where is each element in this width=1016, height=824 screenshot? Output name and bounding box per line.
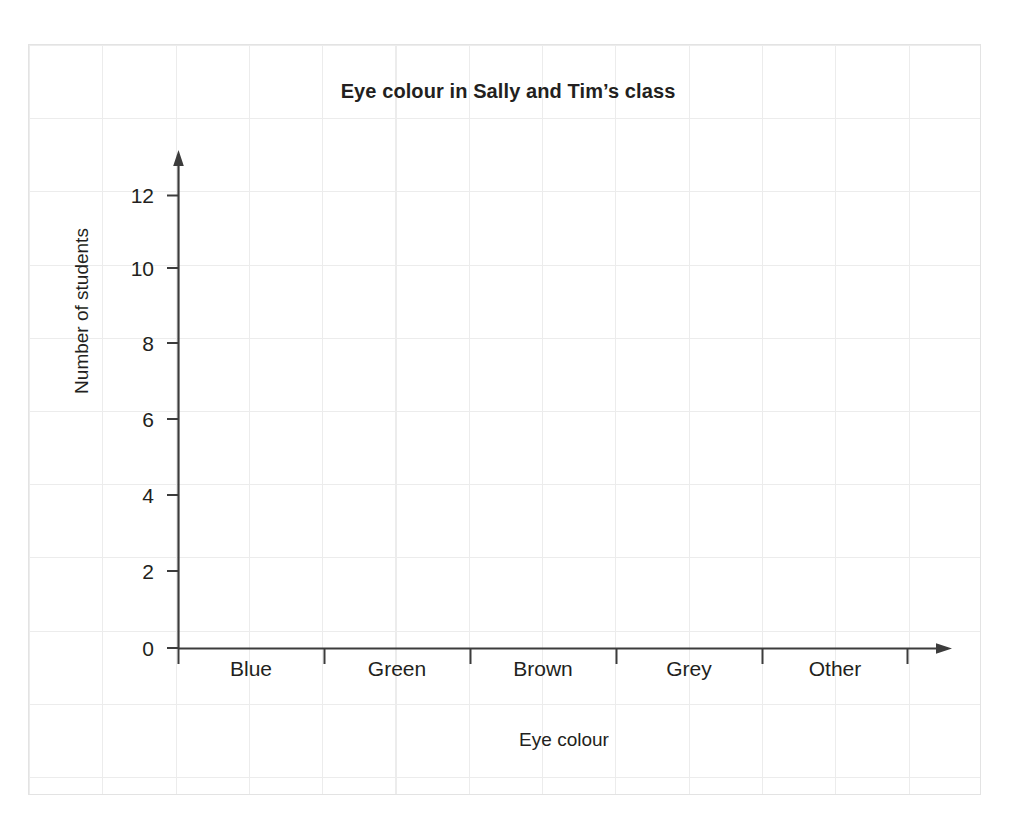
x-category-label-other: Other [762,658,908,679]
y-tick-label: 12 [108,185,154,206]
y-tick-label: 10 [108,258,154,279]
y-tick-label: 4 [108,485,154,506]
x-category-label-blue: Blue [178,658,324,679]
x-axis-title: Eye colour [178,729,950,751]
bar-chart-figure: Eye colour in Sally and Tim’s class [0,0,1016,824]
arrow-right-icon [936,643,952,654]
y-tick-label: 0 [108,638,154,659]
y-tick-label: 2 [108,561,154,582]
x-category-label-grey: Grey [616,658,762,679]
chart-bars-layer [178,195,908,648]
x-category-label-green: Green [324,658,470,679]
y-tick-label: 6 [108,409,154,430]
arrow-up-icon [173,150,184,166]
y-axis-title: Number of students [71,196,93,426]
x-category-label-brown: Brown [470,658,616,679]
y-tick-label: 8 [108,333,154,354]
